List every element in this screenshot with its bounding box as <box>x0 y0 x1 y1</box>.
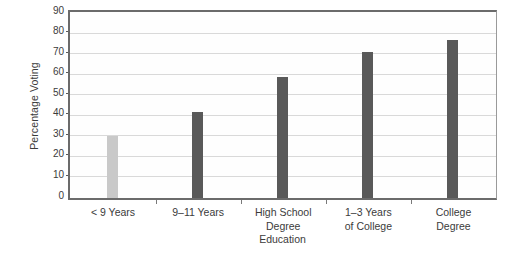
x-axis-ticks <box>68 200 497 205</box>
y-axis-title: Percentage Voting <box>28 6 42 206</box>
x-tick-label: High School Degree <box>241 206 326 233</box>
gridline <box>70 74 496 75</box>
x-tick-label: 1–3 Years of College <box>326 206 411 233</box>
y-tick-label: 50 <box>42 88 64 98</box>
x-tick-label: College Degree <box>411 206 496 233</box>
y-tick-label: 10 <box>42 170 64 180</box>
y-tick-label: 80 <box>42 26 64 36</box>
x-tick-mark <box>241 200 242 204</box>
x-tick-mark <box>411 200 412 204</box>
y-axis-ticks: 0102030405060708090 <box>42 8 64 200</box>
bar <box>447 40 458 198</box>
x-tick-mark <box>156 200 157 204</box>
y-tick-label: 0 <box>42 191 64 201</box>
y-tick-label: 90 <box>42 6 64 16</box>
gridline <box>70 53 496 54</box>
gridline <box>70 33 496 34</box>
x-tick-label: 9–11 Years <box>156 206 241 220</box>
bar <box>107 136 118 198</box>
bar <box>362 52 373 198</box>
y-tick-label: 70 <box>42 47 64 57</box>
y-tick-label: 60 <box>42 67 64 77</box>
y-tick-label: 20 <box>42 149 64 159</box>
y-tick-label: 30 <box>42 129 64 139</box>
bar <box>192 112 203 198</box>
x-tick-mark <box>326 200 327 204</box>
x-tick-label: < 9 Years <box>71 206 156 220</box>
bar <box>277 77 288 198</box>
x-axis-title: Education <box>68 233 497 245</box>
bar-chart: Percentage Voting 0102030405060708090 < … <box>0 0 521 261</box>
y-tick-label: 40 <box>42 108 64 118</box>
plot-area <box>68 10 497 200</box>
